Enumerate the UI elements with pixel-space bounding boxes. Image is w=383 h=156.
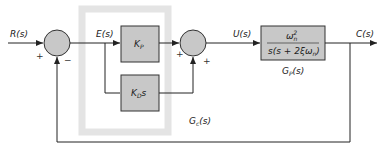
plant-label: GP(s) (282, 66, 304, 77)
plant-numerator: ωn2 (286, 29, 298, 42)
control-label: U(s) (233, 29, 251, 39)
input-label: R(s) (10, 29, 28, 39)
sum1-minus-sign: − (64, 55, 72, 65)
summing-junction-2 (180, 30, 206, 56)
summing-junction-1 (44, 30, 70, 56)
output-label: C(s) (356, 29, 374, 39)
block-diagram: R(s) + − E(s) KP KDs + + U(s) ωn2 s(s + … (0, 0, 383, 156)
plant-denominator: s(s + 2ξωn) (268, 46, 320, 57)
sum2-plus-left-sign: + (176, 49, 184, 59)
derivative-branch-line (105, 43, 120, 93)
error-label: E(s) (96, 29, 113, 39)
kd-output-line (159, 57, 193, 93)
controller-label: Gc(s) (189, 116, 211, 127)
sum1-plus-sign: + (36, 51, 44, 61)
sum2-plus-bottom-sign: + (203, 56, 211, 66)
